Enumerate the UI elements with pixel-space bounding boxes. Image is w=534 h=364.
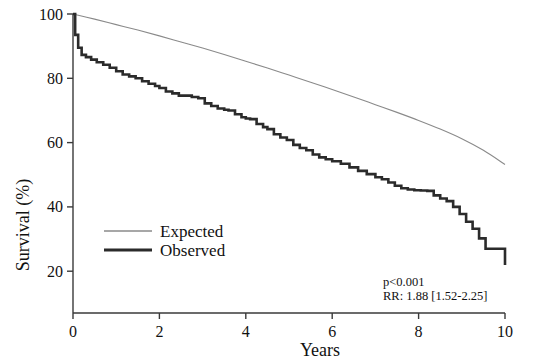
y-tick-label: 60 — [47, 134, 63, 151]
y-tick-label: 100 — [39, 6, 63, 23]
y-tick-label: 20 — [47, 263, 63, 280]
y-tick-label: 40 — [47, 198, 63, 215]
chart-canvas: 20406080100 0246810 Survival (%) Years E… — [0, 0, 534, 364]
x-tick-label: 6 — [328, 323, 336, 340]
x-tick-label: 10 — [497, 323, 513, 340]
y-tick-label: 80 — [47, 70, 63, 87]
legend-label-expected: Expected — [160, 222, 224, 241]
legend-label-observed: Observed — [160, 241, 226, 260]
p-value-text: p<0.001 — [383, 275, 424, 289]
x-tick-label: 4 — [242, 323, 250, 340]
x-axis-title: Years — [300, 340, 340, 360]
y-axis-title: Survival (%) — [13, 179, 34, 271]
x-tick-label: 8 — [415, 323, 423, 340]
survival-chart-figure: 20406080100 0246810 Survival (%) Years E… — [0, 0, 534, 364]
risk-ratio-text: RR: 1.88 [1.52-2.25] — [383, 289, 488, 303]
x-tick-label: 2 — [155, 323, 163, 340]
x-tick-label: 0 — [69, 323, 77, 340]
chart-background — [0, 0, 534, 364]
